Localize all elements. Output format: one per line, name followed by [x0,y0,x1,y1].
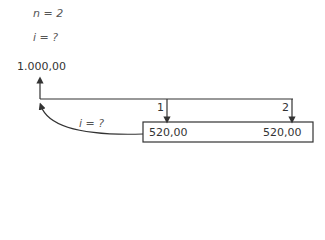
rate-label: i = ? [79,117,104,130]
payment-value-1: 520,00 [149,126,188,139]
payment-value-2: 520,00 [263,126,302,139]
period-label-1: 1 [157,101,164,114]
period-label-2: 2 [282,101,289,114]
